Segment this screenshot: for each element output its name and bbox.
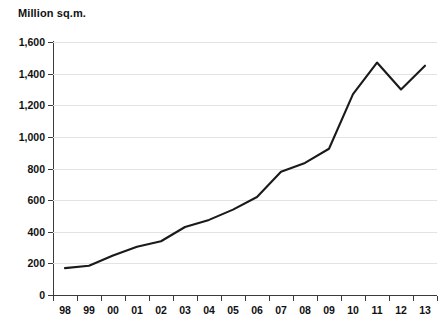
x-tick-label-10: 10 [347,305,359,316]
gridline-1400 [53,74,437,75]
y-tick-label-0: 0 [39,290,45,301]
x-tick-label-12: 12 [395,305,407,316]
y-tick-label-1600: 1,600 [19,37,45,48]
x-tick-mark-16 [437,296,438,301]
chart-container: Million sq.m. 02004006008001,0001,2001,4… [0,0,446,328]
y-tick-label-800: 800 [27,164,45,175]
y-tick-mark-1000 [48,137,53,138]
y-tick-label-1400: 1,400 [19,69,45,80]
x-tick-mark-11 [317,296,318,301]
gridline-1600 [53,42,437,43]
x-tick-mark-7 [221,296,222,301]
y-tick-mark-400 [48,232,53,233]
x-tick-label-11: 11 [371,305,382,316]
x-tick-mark-0 [53,296,54,301]
gridline-400 [53,232,437,233]
y-tick-label-1200: 1,200 [19,100,45,111]
gridline-1200 [53,105,437,106]
x-tick-mark-1 [77,296,78,301]
y-tick-label-600: 600 [27,195,45,206]
plot-area [53,42,437,295]
x-tick-label-00: 00 [107,305,119,316]
x-tick-label-01: 01 [131,305,143,316]
x-tick-mark-5 [173,296,174,301]
x-tick-label-06: 06 [251,305,263,316]
x-tick-mark-10 [293,296,294,301]
x-tick-label-04: 04 [203,305,215,316]
x-tick-mark-4 [149,296,150,301]
x-tick-label-07: 07 [275,305,287,316]
gridline-1000 [53,137,437,138]
x-tick-mark-2 [101,296,102,301]
y-tick-label-400: 400 [27,227,45,238]
x-tick-label-02: 02 [155,305,167,316]
x-tick-label-05: 05 [227,305,239,316]
x-tick-label-99: 99 [83,305,95,316]
x-tick-mark-12 [341,296,342,301]
gridline-800 [53,169,437,170]
y-tick-mark-1600 [48,42,53,43]
y-tick-label-200: 200 [27,258,45,269]
y-tick-label-1000: 1,000 [19,132,45,143]
y-axis-labels: 02004006008001,0001,2001,4001,600 [0,0,45,328]
x-tick-mark-15 [413,296,414,301]
gridline-200 [53,263,437,264]
x-tick-label-09: 09 [323,305,335,316]
x-tick-mark-13 [365,296,366,301]
y-tick-mark-600 [48,200,53,201]
x-tick-mark-8 [245,296,246,301]
x-tick-mark-9 [269,296,270,301]
x-tick-mark-3 [125,296,126,301]
y-tick-mark-1200 [48,105,53,106]
x-tick-label-98: 98 [59,305,71,316]
x-tick-label-13: 13 [419,305,431,316]
y-tick-mark-800 [48,169,53,170]
x-tick-mark-6 [197,296,198,301]
x-tick-mark-14 [389,296,390,301]
x-tick-label-03: 03 [179,305,191,316]
x-tick-label-08: 08 [299,305,311,316]
y-tick-mark-1400 [48,74,53,75]
gridline-600 [53,200,437,201]
y-tick-mark-200 [48,263,53,264]
